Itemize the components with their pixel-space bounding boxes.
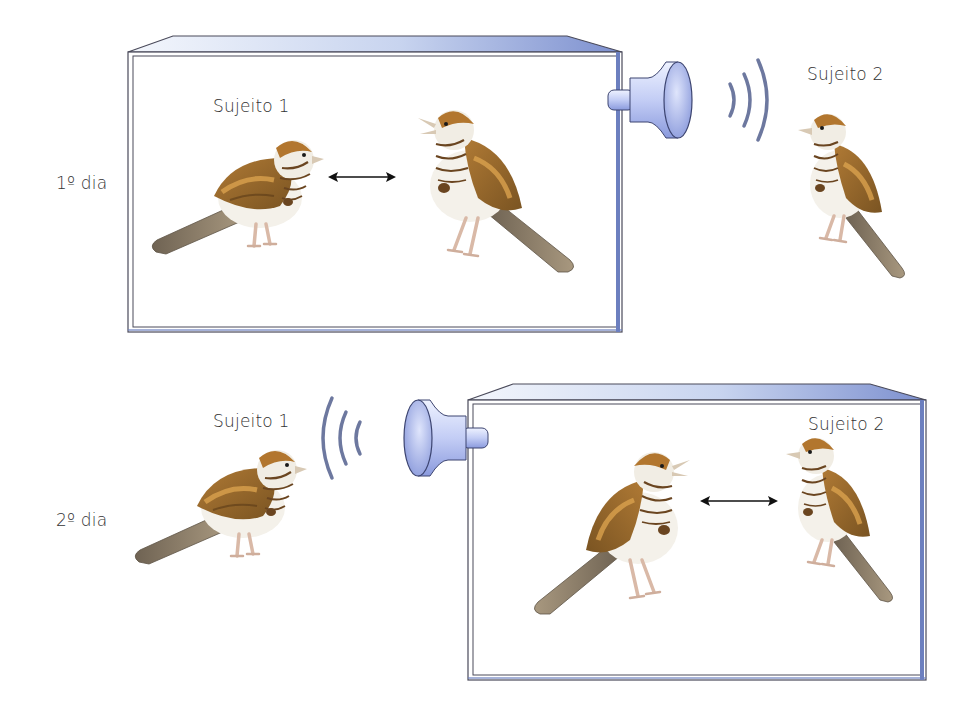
row1-subject1-label: Sujeito 1 <box>213 96 290 116</box>
row2-subject1-label: Sujeito 1 <box>213 411 290 431</box>
row2-sound-waves-icon <box>323 398 360 478</box>
row1-sound-waves-icon <box>730 60 767 140</box>
row1-day-label: 1º dia <box>56 173 107 193</box>
diagram-canvas <box>0 0 978 715</box>
row2-subject1-bird <box>135 450 307 564</box>
row1-enclosure <box>128 36 622 332</box>
row2-subject2-label: Sujeito 2 <box>808 414 885 434</box>
row1-subject2-label: Sujeito 2 <box>807 64 884 84</box>
row1-subject2-bird <box>798 114 905 278</box>
row2-day-label: 2º dia <box>56 510 107 530</box>
